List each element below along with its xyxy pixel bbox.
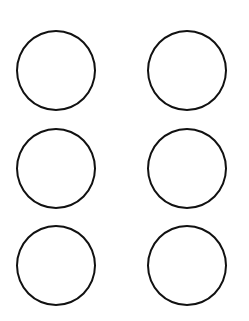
circle-row1-col2: [147, 30, 227, 111]
circle-row1-col1: [16, 30, 96, 111]
diagram-canvas: [0, 0, 249, 321]
circle-row2-col1: [16, 128, 96, 209]
circle-row2-col2: [147, 128, 227, 209]
circle-row3-col2: [147, 225, 227, 306]
circle-row3-col1: [16, 225, 96, 306]
